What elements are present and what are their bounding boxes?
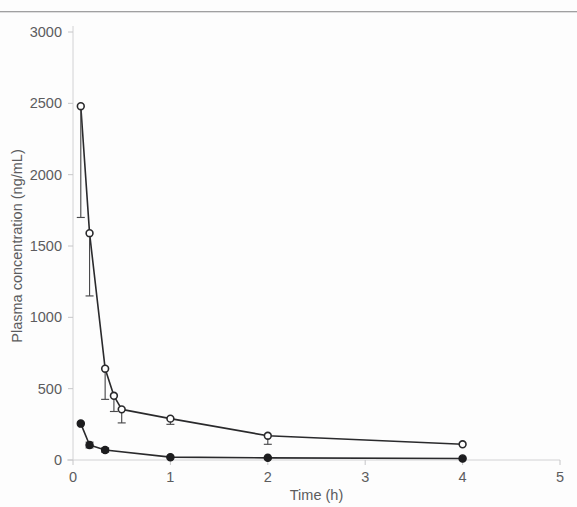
filled-circle-marker	[86, 441, 93, 448]
x-tick-label: 1	[166, 469, 174, 485]
open-circle-marker	[459, 441, 466, 448]
y-tick-label: 2000	[30, 167, 62, 183]
series-line	[81, 106, 463, 444]
open-circle-marker	[118, 406, 125, 413]
open-circle-marker	[102, 365, 109, 372]
x-tick-label: 3	[361, 469, 369, 485]
filled-circle-marker	[167, 454, 174, 461]
error-bar	[86, 233, 94, 296]
axes-layer	[67, 26, 560, 465]
filled-circle-marker	[459, 455, 466, 462]
x-tick-label: 5	[556, 469, 564, 485]
x-tick-label: 2	[264, 469, 272, 485]
x-tick-label: 0	[69, 469, 77, 485]
open-circle-marker	[77, 103, 84, 110]
open-circle-marker	[167, 415, 174, 422]
plasma-concentration-line-chart: 012345050010001500200025003000Time (h)Pl…	[0, 0, 577, 507]
y-tick-label: 2500	[30, 95, 62, 111]
y-tick-label: 3000	[30, 24, 62, 40]
error-bar	[77, 106, 85, 217]
data-series-1	[77, 103, 466, 448]
open-circle-marker	[111, 392, 118, 399]
y-axis-title: Plasma concentration (ng/mL)	[9, 149, 25, 342]
x-axis-title: Time (h)	[290, 487, 343, 503]
y-tick-label: 1000	[30, 309, 62, 325]
y-tick-label: 0	[54, 452, 62, 468]
data-series-2	[77, 420, 466, 462]
error-bar	[101, 369, 109, 400]
x-tick-label: 4	[459, 469, 467, 485]
series-layer	[77, 103, 466, 462]
open-circle-marker	[264, 432, 271, 439]
y-tick-label: 500	[38, 381, 62, 397]
filled-circle-marker	[264, 454, 271, 461]
y-tick-label: 1500	[30, 238, 62, 254]
filled-circle-marker	[102, 446, 109, 453]
filled-circle-marker	[77, 420, 84, 427]
figure-canvas: 012345050010001500200025003000Time (h)Pl…	[0, 0, 577, 507]
open-circle-marker	[86, 230, 93, 237]
